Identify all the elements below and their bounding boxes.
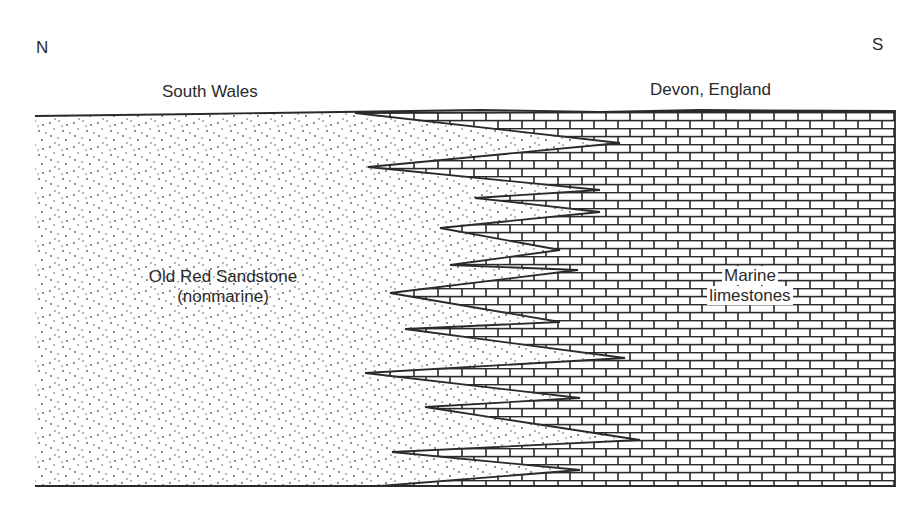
location-south-wales: South Wales — [162, 82, 258, 102]
sandstone-name: Old Red Sandstone — [128, 267, 318, 287]
south-label: S — [872, 35, 883, 55]
limestone-label: Marine limestones — [690, 266, 810, 306]
sandstone-qualifier: (nonmarine) — [128, 287, 318, 307]
limestone-name: Marine — [722, 266, 778, 285]
cross-section-diagram — [0, 0, 922, 507]
limestone-qualifier: limestones — [707, 286, 792, 305]
sandstone-label: Old Red Sandstone (nonmarine) — [128, 267, 318, 307]
location-devon-england: Devon, England — [650, 80, 771, 100]
north-label: N — [36, 38, 48, 58]
